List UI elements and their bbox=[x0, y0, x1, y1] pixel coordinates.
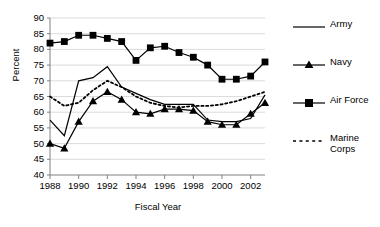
legend-key-navy bbox=[292, 57, 326, 69]
legend-label-marine-corps: MarineCorps bbox=[326, 132, 359, 154]
series-navy bbox=[46, 88, 269, 152]
series-air-force bbox=[47, 32, 269, 83]
x-tick-label: 2002 bbox=[236, 181, 266, 191]
y-tick-label: 80 bbox=[24, 44, 44, 54]
x-tick-label: 1990 bbox=[64, 181, 94, 191]
x-tick-label: 1992 bbox=[92, 181, 122, 191]
legend-label-marine-corps-line1: Marine bbox=[330, 132, 359, 143]
y-tick-label: 75 bbox=[24, 60, 44, 70]
legend-item-marine-corps: MarineCorps bbox=[292, 132, 380, 170]
legend-key-army bbox=[292, 19, 326, 31]
legend-item-navy: Navy bbox=[292, 56, 380, 94]
x-tick-label: 1988 bbox=[35, 181, 65, 191]
legend-item-army: Army bbox=[292, 18, 380, 56]
x-axis-title: Fiscal Year bbox=[135, 201, 181, 212]
series-army bbox=[50, 67, 265, 136]
y-tick-label: 90 bbox=[24, 13, 44, 23]
y-tick-label: 65 bbox=[24, 92, 44, 102]
legend-label-navy: Navy bbox=[326, 56, 352, 67]
y-axis-title-wrap: Percent bbox=[5, 25, 23, 105]
x-tick-label: 2000 bbox=[207, 181, 237, 191]
legend-label-air-force: Air Force bbox=[326, 94, 369, 105]
x-axis-ticks bbox=[50, 175, 251, 179]
y-tick-label: 60 bbox=[24, 107, 44, 117]
x-tick-label: 1998 bbox=[178, 181, 208, 191]
y-tick-label: 40 bbox=[24, 170, 44, 180]
y-tick-label: 85 bbox=[24, 29, 44, 39]
y-tick-label: 70 bbox=[24, 76, 44, 86]
series-marine-corps bbox=[50, 81, 265, 108]
y-axis-title: Percent bbox=[10, 49, 21, 82]
y-tick-label: 45 bbox=[24, 154, 44, 164]
chart-container: 4045505560657075808590 19881990199219941… bbox=[0, 0, 380, 227]
x-axis-title-wrap: Fiscal Year bbox=[50, 196, 266, 214]
legend-key-marine-corps bbox=[292, 133, 326, 145]
chart-legend: Army Navy Air Force bbox=[292, 18, 380, 170]
legend-label-marine-corps-line2: Corps bbox=[330, 143, 355, 154]
legend-key-air-force bbox=[292, 95, 326, 107]
data-series-layer bbox=[46, 32, 269, 152]
legend-label-army: Army bbox=[326, 18, 352, 29]
x-tick-label: 1994 bbox=[121, 181, 151, 191]
x-tick-label: 1996 bbox=[150, 181, 180, 191]
y-tick-label: 50 bbox=[24, 139, 44, 149]
gridlines bbox=[50, 18, 265, 159]
legend-item-air-force: Air Force bbox=[292, 94, 380, 132]
y-tick-label: 55 bbox=[24, 123, 44, 133]
